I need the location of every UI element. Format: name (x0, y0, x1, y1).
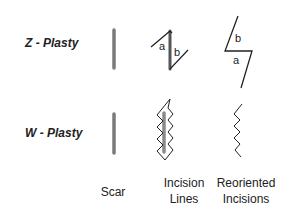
col-label-scar-line1: Scar (101, 185, 126, 199)
col-label-reoriented-line1: Reoriented (212, 175, 280, 191)
z-reoriented-flap-a: a (233, 54, 240, 66)
z-reoriented-incisions: b a (225, 16, 252, 88)
col-label-scar: Scar (97, 184, 129, 200)
col-label-incision-lines: Incision Lines (158, 175, 210, 207)
z-incision-flap-a: a (159, 40, 166, 52)
col-label-reoriented-line2: Incisions (212, 191, 280, 207)
z-incision-lines: a b (151, 31, 188, 69)
w-reoriented-incisions (234, 104, 242, 157)
col-label-incision-line1: Incision (158, 175, 210, 191)
z-reoriented-flap-b: b (235, 32, 241, 44)
z-incision-flap-b: b (174, 46, 180, 58)
col-label-incision-line2: Lines (158, 191, 210, 207)
w-incision-lines (157, 99, 173, 160)
col-label-reoriented-incisions: Reoriented Incisions (212, 175, 280, 207)
